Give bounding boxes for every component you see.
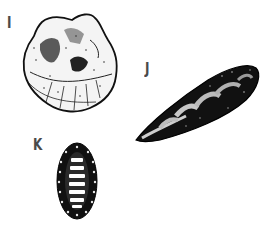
shell-illustrations (0, 0, 265, 229)
mussel-shell-illustration (136, 66, 259, 142)
oyster-shell-illustration (24, 14, 117, 111)
chiton-shell-illustration (57, 143, 97, 219)
